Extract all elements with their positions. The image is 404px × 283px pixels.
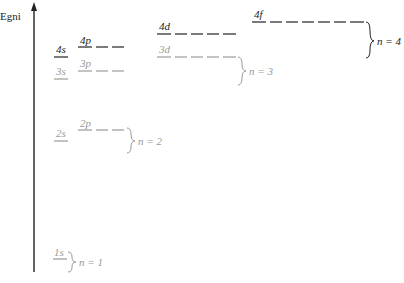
shell-n3: 3s 3p 3d n = 3 [54, 43, 273, 85]
shell-n2: 2s 2p n = 2 [54, 117, 162, 153]
orbital-label-4p: 4p [80, 34, 92, 46]
orbital-label-3s: 3s [55, 65, 66, 77]
shell-label-n4: n = 4 [377, 35, 401, 47]
orbital-label-1s: 1s [54, 246, 64, 258]
arrow-up-icon [31, 2, 37, 11]
shell-label-n2: n = 2 [138, 135, 162, 147]
orbital-label-4s: 4s [56, 43, 66, 55]
energy-level-diagram: Egni 1s n = 1 2s 2p n = 2 3s 3p 3d [0, 0, 404, 283]
brace-n4 [366, 22, 374, 58]
shell-label-n3: n = 3 [249, 65, 273, 77]
shell-n1: 1s n = 1 [53, 246, 103, 272]
brace-n1 [68, 252, 76, 272]
orbital-label-4f: 4f [254, 8, 265, 20]
orbital-label-3p: 3p [79, 57, 92, 69]
energy-axis: Egni [0, 2, 37, 272]
brace-n2 [127, 128, 135, 153]
axis-label: Egni [0, 10, 21, 22]
shell-n4: 4s 4p 4d 4f n = 4 [54, 8, 401, 58]
shell-label-n1: n = 1 [79, 256, 103, 268]
orbital-label-4d: 4d [159, 20, 171, 32]
brace-n3 [238, 57, 246, 85]
orbital-label-2s: 2s [56, 127, 66, 139]
orbital-label-3d: 3d [158, 43, 171, 55]
orbital-label-2p: 2p [80, 117, 92, 129]
